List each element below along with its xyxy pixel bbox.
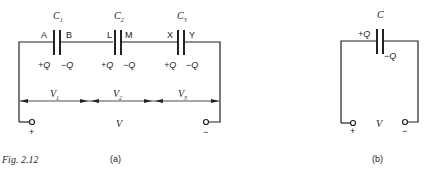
plate-a-label: A — [41, 30, 47, 40]
c3-left-charge: +Q — [164, 60, 176, 70]
plate-x-label: X — [167, 30, 173, 40]
v2-label: V2 — [113, 88, 122, 101]
c2-label: C2 — [114, 10, 124, 23]
v1-label: V1 — [50, 88, 59, 101]
b-wire-left — [341, 41, 376, 123]
c3-right-charge: −Q — [186, 60, 198, 70]
plus-terminal-icon — [30, 120, 35, 125]
c1-label: C1 — [53, 10, 63, 23]
wire-left — [19, 42, 53, 122]
plate-y-label: Y — [189, 30, 195, 40]
minus-sign: − — [203, 127, 208, 137]
c1-right-charge: −Q — [61, 60, 73, 70]
panel-b-label: (b) — [372, 154, 383, 164]
b-minus-sign: − — [402, 126, 407, 136]
capacitor-diagram: C1 C2 C3 A B L M X Y +Q −Q +Q −Q +Q −Q V… — [0, 0, 434, 172]
b-plus-terminal-icon — [351, 121, 356, 126]
c1-left-charge: +Q — [38, 60, 50, 70]
b-plus-sign: + — [350, 126, 355, 136]
b-total-voltage-label: V — [376, 118, 384, 129]
b-capacitor-label: C — [377, 9, 384, 20]
total-voltage-label: V — [116, 118, 124, 129]
figure-caption: Fig. 2.12 — [1, 154, 38, 165]
c2-left-charge: +Q — [101, 60, 113, 70]
minus-terminal-icon — [204, 120, 209, 125]
wire-right — [185, 42, 220, 122]
plate-l-label: L — [107, 30, 112, 40]
v3-label: V3 — [178, 88, 187, 101]
plus-sign: + — [29, 127, 34, 137]
b-right-charge: −Q — [384, 51, 396, 61]
plate-b-label: B — [66, 30, 72, 40]
panel-a-label: (a) — [110, 154, 121, 164]
plate-m-label: M — [125, 30, 133, 40]
c2-right-charge: −Q — [123, 60, 135, 70]
c3-label: C3 — [177, 10, 187, 23]
b-minus-terminal-icon — [403, 120, 408, 125]
b-left-charge: +Q — [358, 29, 370, 39]
